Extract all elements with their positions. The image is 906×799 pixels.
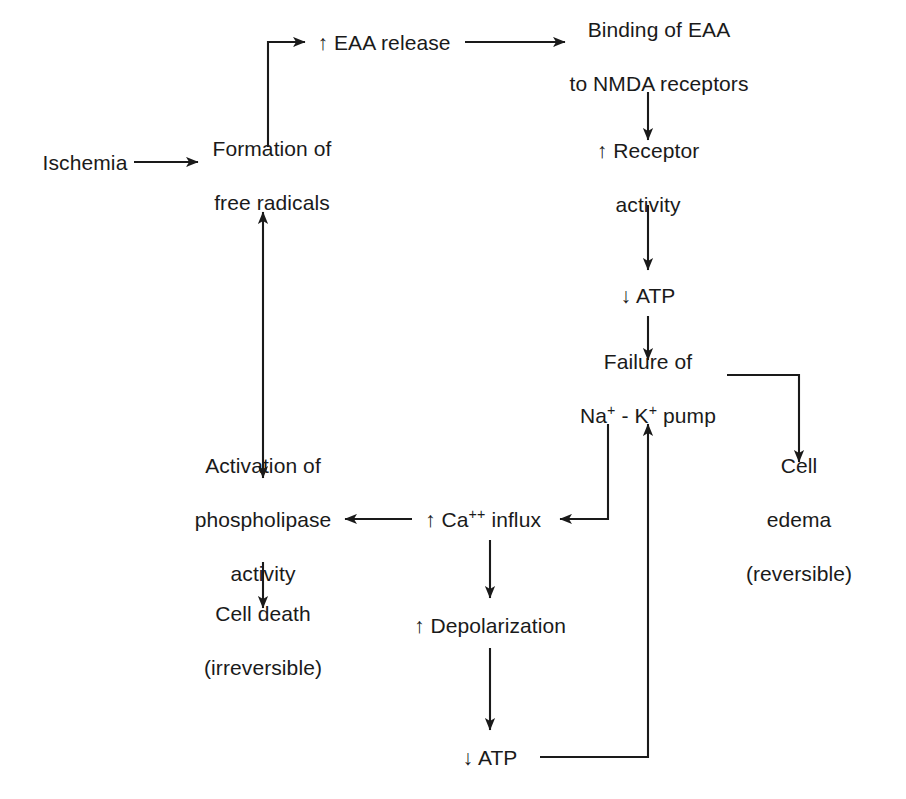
- flowchart-diagram: Ischemia Formation of free radicals ↑ EA…: [0, 0, 906, 799]
- node-cell-edema: Cell edema (reversible): [746, 425, 852, 614]
- node-line: Cell death: [204, 600, 322, 627]
- node-line: Cell: [746, 452, 852, 479]
- node-receptor-activity: ↑ Receptor activity: [597, 110, 700, 245]
- ca-influx-lead: ↑ Ca: [425, 508, 469, 531]
- ca-influx-charge: ++: [469, 506, 486, 522]
- node-line: Na+ - K+ pump: [580, 402, 716, 429]
- node-line: to NMDA receptors: [569, 70, 748, 97]
- node-line: Activation of: [195, 452, 332, 479]
- node-ischemia: Ischemia: [43, 149, 128, 176]
- node-line: (irreversible): [204, 654, 322, 681]
- node-cell-death: Cell death (irreversible): [204, 573, 322, 708]
- edge-atp-bottom-to-pump-failure: [540, 424, 648, 757]
- pump-tail-label: pump: [657, 404, 716, 427]
- pump-separator: - K: [616, 404, 649, 427]
- node-line: (reversible): [746, 560, 852, 587]
- node-atp-decrease-bottom: ↓ ATP: [463, 744, 518, 771]
- node-line: phospholipase: [195, 506, 332, 533]
- node-line: free radicals: [212, 189, 331, 216]
- pump-k-charge: +: [649, 402, 657, 418]
- node-eaa-release: ↑ EAA release: [317, 29, 450, 56]
- node-depolarization: ↑ Depolarization: [414, 612, 566, 639]
- edge-layer: [0, 0, 906, 799]
- node-line: activity: [597, 191, 700, 218]
- ca-influx-tail: influx: [485, 508, 541, 531]
- node-binding-of-eaa-to-nmda-receptors: Binding of EAA to NMDA receptors: [569, 0, 748, 124]
- pump-na-label: Na: [580, 404, 607, 427]
- node-line: Formation of: [212, 135, 331, 162]
- node-failure-of-na-k-pump: Failure of Na+ - K+ pump: [580, 321, 716, 456]
- node-line: Failure of: [580, 348, 716, 375]
- node-atp-decrease-top: ↓ ATP: [621, 282, 676, 309]
- node-line: ↑ Receptor: [597, 137, 700, 164]
- node-calcium-influx: ↑ Ca++ influx: [425, 506, 541, 533]
- node-line: Binding of EAA: [569, 16, 748, 43]
- node-line: edema: [746, 506, 852, 533]
- node-formation-of-free-radicals: Formation of free radicals: [212, 108, 331, 243]
